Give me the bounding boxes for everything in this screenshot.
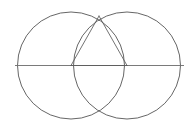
- triangle-left-leg: [71, 16, 99, 66]
- triangle-right-leg: [99, 16, 127, 66]
- geometry-canvas: [0, 0, 195, 130]
- geometry-figure: [0, 0, 195, 130]
